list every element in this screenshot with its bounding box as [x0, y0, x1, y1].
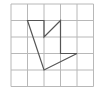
- polygon-shape: [28, 21, 78, 71]
- grid-diagram: [0, 0, 94, 91]
- square-grid: [11, 4, 94, 87]
